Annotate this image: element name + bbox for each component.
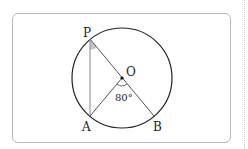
center-dot (120, 76, 123, 79)
label-a: A (81, 120, 91, 134)
label-o: O (126, 65, 136, 79)
angle-p-marker (90, 40, 97, 50)
label-b: B (153, 120, 162, 134)
circle-diagram: P O A B 80° (0, 0, 248, 149)
label-p: P (83, 26, 91, 40)
angle-aob-label: 80° (115, 92, 133, 103)
angle-o-arc (117, 84, 127, 86)
